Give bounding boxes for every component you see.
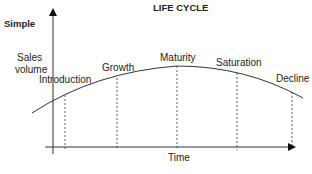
stage-label-decline: Decline (276, 73, 309, 84)
stage-label-maturity: Maturity (160, 52, 196, 63)
stage-label-growth: Growth (102, 62, 134, 73)
life-cycle-diagram (0, 0, 312, 174)
y-axis-label-line1: Sales (17, 52, 42, 63)
x-axis-label: Time (168, 152, 190, 163)
stage-label-saturation: Saturation (216, 57, 262, 68)
diagram-title: LIFE CYCLE (153, 2, 208, 13)
stage-label-introduction: Introduction (39, 74, 91, 85)
side-label: Simple (4, 18, 35, 29)
